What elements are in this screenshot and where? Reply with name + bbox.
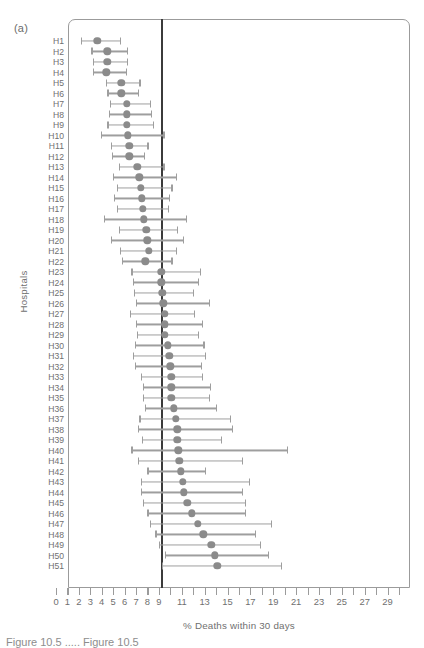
data-row [68, 361, 410, 372]
data-row [68, 519, 410, 530]
data-row [68, 529, 410, 540]
data-row [68, 561, 410, 572]
ci-cap-upper [171, 258, 172, 265]
x-tick [147, 588, 148, 595]
confidence-interval-bar [131, 450, 286, 451]
x-tick [388, 588, 389, 595]
data-row [68, 424, 410, 435]
ci-cap-upper [281, 562, 282, 569]
confidence-interval-bar [117, 187, 172, 188]
ci-cap-upper [216, 405, 217, 412]
confidence-interval-bar [131, 271, 200, 272]
data-point-marker [136, 174, 143, 181]
data-row [68, 67, 410, 78]
ci-cap-upper [169, 195, 170, 202]
y-tick-label: H19 [48, 226, 64, 235]
ci-cap-lower [143, 394, 144, 401]
ci-cap-lower [101, 132, 102, 139]
y-tick-label: H22 [48, 257, 64, 266]
ci-cap-upper [183, 237, 184, 244]
ci-cap-lower [110, 100, 111, 107]
ci-cap-lower [117, 184, 118, 191]
data-row [68, 550, 410, 561]
y-tick-label: H42 [48, 467, 64, 476]
y-tick-label: H23 [48, 268, 64, 277]
data-row [68, 235, 410, 246]
x-tick [376, 588, 377, 595]
x-tick [239, 588, 240, 595]
x-tick [353, 588, 354, 595]
y-tick-label: H32 [48, 362, 64, 371]
y-tick-label: H12 [48, 152, 64, 161]
ci-cap-upper [144, 153, 145, 160]
y-tick-label: H31 [48, 352, 64, 361]
ci-cap-lower [117, 205, 118, 212]
y-tick-label: H27 [48, 310, 64, 319]
data-row [68, 487, 410, 498]
ci-cap-upper [163, 163, 164, 170]
data-point-marker [123, 111, 130, 118]
data-point-marker [117, 79, 124, 86]
x-tick-label: 19 [268, 596, 278, 607]
x-tick-label: 2 [76, 596, 81, 607]
y-tick-label: H36 [48, 404, 64, 413]
data-point-marker [175, 447, 182, 454]
x-tick-label: 29 [382, 596, 392, 607]
data-point-marker [211, 552, 218, 559]
data-row [68, 46, 410, 57]
ci-cap-lower [134, 289, 135, 296]
ci-cap-upper [255, 531, 256, 538]
y-tick-label: H26 [48, 299, 64, 308]
data-row [68, 403, 410, 414]
data-row [68, 393, 410, 404]
data-point-marker [138, 195, 145, 202]
x-tick-label: 9 [156, 596, 161, 607]
x-tick [399, 588, 400, 595]
ci-cap-upper [176, 174, 177, 181]
data-row [68, 141, 410, 152]
ci-cap-upper [268, 552, 269, 559]
ci-cap-upper [209, 300, 210, 307]
x-tick [170, 588, 171, 595]
y-tick-label: H14 [48, 173, 64, 182]
data-row [68, 477, 410, 488]
data-row [68, 288, 410, 299]
ci-cap-lower [155, 531, 156, 538]
ci-cap-upper [202, 321, 203, 328]
data-point-marker [145, 247, 152, 254]
x-tick-label: 21 [291, 596, 301, 607]
data-row [68, 456, 410, 467]
x-tick [182, 588, 183, 595]
confidence-interval-bar [141, 492, 243, 493]
data-point-marker [180, 489, 187, 496]
y-tick-label: H15 [48, 184, 64, 193]
ci-cap-lower [165, 552, 166, 559]
data-point-marker [133, 163, 140, 170]
confidence-interval-bar [107, 124, 153, 125]
ci-cap-lower [141, 373, 142, 380]
y-tick-label: H51 [48, 562, 64, 571]
confidence-interval-bar [138, 429, 232, 430]
data-row [68, 498, 410, 509]
y-tick-label: H20 [48, 236, 64, 245]
ci-cap-lower [147, 510, 148, 517]
data-point-marker [172, 415, 179, 422]
data-point-marker [93, 37, 100, 44]
confidence-interval-bar [139, 418, 229, 419]
confidence-interval-bar [133, 282, 198, 283]
ci-cap-upper [201, 363, 202, 370]
ci-cap-lower [136, 321, 137, 328]
y-tick-label: H11 [49, 142, 64, 151]
y-tick-label: H30 [48, 341, 64, 350]
y-tick-label: H28 [48, 320, 64, 329]
ci-cap-upper [271, 520, 272, 527]
data-point-marker [139, 205, 146, 212]
ci-cap-upper [186, 216, 187, 223]
data-row [68, 340, 410, 351]
ci-cap-upper [194, 310, 195, 317]
data-row [68, 162, 410, 173]
confidence-interval-bar [136, 303, 209, 304]
ci-cap-lower [143, 384, 144, 391]
y-tick-label: H50 [48, 551, 64, 560]
ci-cap-lower [150, 520, 151, 527]
